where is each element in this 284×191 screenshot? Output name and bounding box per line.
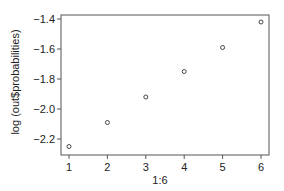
y-axis: −2.2−2.0−1.8−1.6−1.4 xyxy=(33,13,61,145)
y-tick-label: −1.6 xyxy=(33,43,55,55)
data-point-marker xyxy=(67,145,71,149)
x-tick-label: 6 xyxy=(258,161,264,173)
x-tick-label: 3 xyxy=(143,161,149,173)
x-tick-label: 5 xyxy=(220,161,226,173)
y-tick-label: −2.0 xyxy=(33,103,55,115)
plot-area-frame xyxy=(61,15,269,155)
x-tick-label: 1 xyxy=(66,161,72,173)
x-axis: 123456 xyxy=(66,155,264,173)
data-point-marker xyxy=(221,46,225,50)
y-tick-label: −2.2 xyxy=(33,133,55,145)
x-axis-title: 1:6 xyxy=(152,174,167,186)
y-tick-label: −1.4 xyxy=(33,13,55,25)
x-tick-label: 2 xyxy=(104,161,110,173)
x-tick-label: 4 xyxy=(181,161,187,173)
data-point-marker xyxy=(105,121,109,125)
y-tick-label: −1.8 xyxy=(33,73,55,85)
y-axis-title: log (out$probabilities) xyxy=(9,29,21,134)
data-point-marker xyxy=(182,70,186,74)
data-point-marker xyxy=(259,20,263,24)
data-points xyxy=(67,20,263,149)
scatter-chart: −2.2−2.0−1.8−1.6−1.4 123456 1:6 log (out… xyxy=(0,0,284,191)
data-point-marker xyxy=(144,95,148,99)
